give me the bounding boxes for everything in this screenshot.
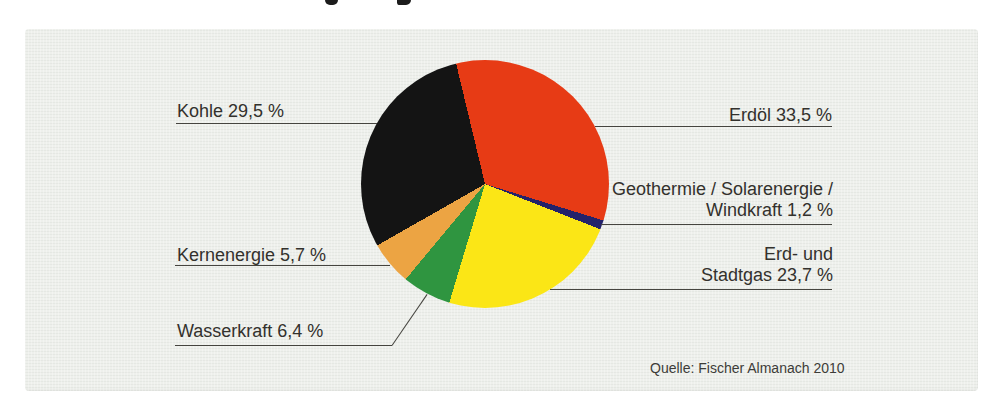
label-wasserkraft: Wasserkraft 6,4 % [177, 321, 323, 342]
page: Kohle 29,5 % Kernenergie 5,7 % Wasserkra… [0, 0, 1005, 409]
leader-line-kernenergie [175, 265, 390, 266]
label-geothermie-line1: Geothermie / Solarenergie / [540, 179, 833, 200]
label-kernenergie: Kernenergie 5,7 % [177, 245, 326, 266]
leader-line-wasserkraft [175, 345, 392, 346]
label-erdoel: Erdöl 33,5 % [600, 105, 832, 126]
cropped-title-text-fragment [325, 0, 338, 5]
leader-line-geothermie [601, 224, 832, 225]
cropped-title-text-fragment [397, 0, 411, 5]
label-geothermie-line2: Windkraft 1,2 % [540, 200, 833, 221]
source-note: Quelle: Fischer Almanach 2010 [650, 360, 845, 377]
label-stadtgas-line1: Erd- und [640, 244, 833, 265]
label-kohle: Kohle 29,5 % [177, 101, 284, 122]
label-stadtgas: Erd- und Stadtgas 23,7 % [640, 244, 833, 286]
leader-line-erdoel [595, 126, 832, 127]
label-geothermie: Geothermie / Solarenergie / Windkraft 1,… [540, 179, 833, 221]
label-stadtgas-line2: Stadtgas 23,7 % [640, 265, 833, 286]
leader-line-kohle [176, 123, 377, 124]
leader-line-stadtgas [550, 289, 832, 290]
